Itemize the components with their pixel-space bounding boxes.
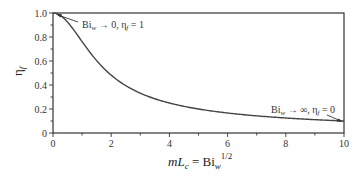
y-tick-label: 0.4 bbox=[35, 80, 48, 91]
y-axis-ticks: 00.20.40.60.81.0 bbox=[35, 8, 54, 139]
annotation-left: Biw → 0, ηf = 1 bbox=[82, 19, 144, 32]
x-tick-label: 10 bbox=[339, 138, 349, 149]
x-axis-ticks: 0246810 bbox=[51, 133, 350, 149]
arrowhead-left-icon bbox=[56, 14, 62, 18]
x-tick-label: 6 bbox=[225, 138, 230, 149]
arrowhead-right-icon bbox=[337, 118, 343, 122]
x-axis-label: mLc = Biw1/2 bbox=[168, 151, 232, 171]
x-tick-label: 8 bbox=[283, 138, 288, 149]
y-tick-label: 1.0 bbox=[35, 8, 48, 19]
annotation-right: Biw → ∞, ηf = 0 bbox=[271, 104, 335, 117]
y-tick-label: 0.8 bbox=[35, 32, 48, 43]
y-axis-label: ηf bbox=[10, 65, 27, 76]
plot-frame bbox=[53, 13, 344, 133]
x-tick-label: 0 bbox=[51, 138, 56, 149]
x-tick-label: 4 bbox=[167, 138, 172, 149]
y-tick-label: 0.2 bbox=[35, 104, 48, 115]
y-tick-label: 0.6 bbox=[35, 56, 48, 67]
chart-canvas: 00.20.40.60.81.0 0246810 Biw → 0, ηf = 1… bbox=[0, 0, 360, 178]
x-tick-label: 2 bbox=[109, 138, 114, 149]
y-tick-label: 0 bbox=[42, 128, 47, 139]
